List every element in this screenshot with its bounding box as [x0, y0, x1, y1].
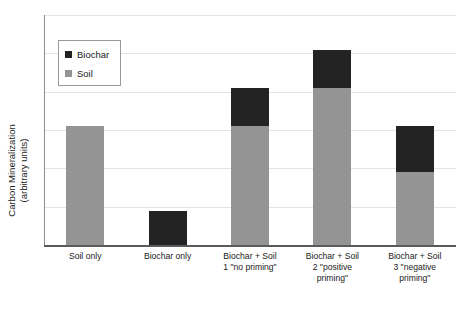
x-axis-tick-label: Soil only — [44, 251, 126, 262]
legend-item-soil: Soil — [65, 65, 120, 82]
x-axis-tick-label: Biochar + Soil3 "negativepriming" — [374, 251, 456, 284]
x-axis-tick-label: Biochar + Soil1 "no priming" — [209, 251, 291, 273]
x-axis-tick-label-line: 1 "no priming" — [223, 262, 276, 272]
bar-column — [313, 50, 351, 246]
legend: Biochar Soil — [58, 40, 121, 86]
legend-swatch-soil-icon — [65, 70, 72, 77]
y-axis-title: Carbon Mineralization (arbitrary units) — [0, 95, 34, 245]
bar-segment-biochar — [396, 126, 434, 172]
bar-segment-biochar — [149, 211, 187, 246]
x-axis-tick-label-line: Biochar + Soil — [388, 251, 441, 261]
legend-label-soil: Soil — [77, 68, 93, 79]
gridline — [44, 15, 456, 16]
x-axis-tick-label-line: 3 "negative — [393, 262, 436, 272]
bar-segment-soil — [313, 88, 351, 245]
bar-column — [231, 88, 269, 245]
bar-column — [149, 211, 187, 246]
x-axis-tick-label-line: Biochar + Soil — [223, 251, 276, 261]
bar-chart: Carbon Mineralization (arbitrary units) … — [0, 0, 470, 311]
x-axis-tick-labels: Soil onlyBiochar onlyBiochar + Soil1 "no… — [44, 251, 456, 309]
legend-swatch-biochar-icon — [65, 51, 72, 58]
x-axis-tick-label-line: 2 "positive — [313, 262, 352, 272]
legend-label-biochar: Biochar — [77, 49, 109, 60]
x-axis-tick-label: Biochar + Soil2 "positivepriming" — [291, 251, 373, 284]
x-axis-tick-label-line: Soil only — [69, 251, 101, 261]
bar-segment-soil — [396, 172, 434, 245]
bar-column — [66, 126, 104, 245]
y-axis-line — [44, 15, 45, 246]
bar-segment-soil — [66, 126, 104, 245]
bar-segment-biochar — [231, 88, 269, 126]
x-axis-tick-label: Biochar only — [126, 251, 208, 262]
x-axis-tick-label-line: priming" — [399, 273, 430, 283]
bar-segment-biochar — [313, 50, 351, 88]
y-axis-title-line-2: (arbitrary units) — [17, 138, 28, 202]
legend-item-biochar: Biochar — [65, 46, 120, 63]
x-axis-tick-label-line: Biochar only — [144, 251, 191, 261]
bar-column — [396, 126, 434, 245]
bar-segment-soil — [231, 126, 269, 245]
y-axis-title-line-1: Carbon Mineralization — [6, 124, 17, 216]
x-axis-line — [44, 245, 456, 247]
x-axis-tick-label-line: priming" — [317, 273, 348, 283]
x-axis-tick-label-line: Biochar + Soil — [306, 251, 359, 261]
